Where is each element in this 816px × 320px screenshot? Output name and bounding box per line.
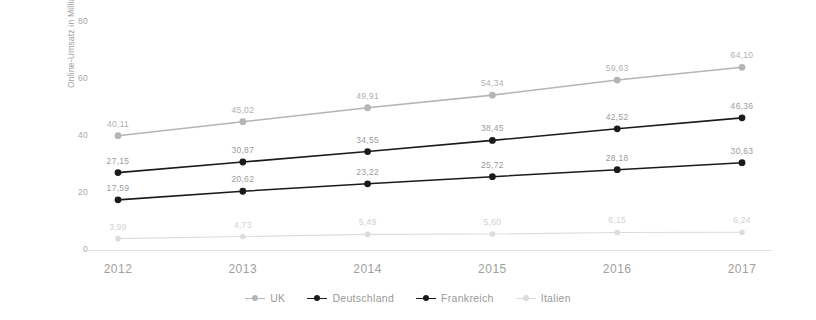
data-point-marker: [115, 132, 122, 139]
data-point-label: 54,34: [469, 78, 515, 88]
data-point-label: 23,22: [345, 167, 391, 177]
series-line: [118, 118, 742, 173]
legend-marker-icon: [416, 293, 436, 303]
data-point-label: 25,72: [469, 160, 515, 170]
data-point-label: 49,91: [345, 91, 391, 101]
data-point-marker: [239, 118, 246, 125]
legend-item-deutschland[interactable]: Deutschland: [307, 292, 394, 304]
series-frankreich: [115, 159, 746, 203]
data-point-marker: [364, 148, 371, 155]
chart-legend: UKDeutschlandFrankreichItalien: [0, 292, 816, 304]
data-point-label: 30,63: [719, 146, 765, 156]
data-point-marker: [364, 104, 371, 111]
data-point-label: 6,15: [594, 215, 640, 225]
legend-item-italien[interactable]: Italien: [516, 292, 571, 304]
data-point-label: 64,10: [719, 50, 765, 60]
legend-item-label: Deutschland: [332, 292, 394, 304]
data-point-marker: [490, 231, 496, 237]
data-point-label: 38,45: [469, 123, 515, 133]
series-deutschland: [115, 114, 746, 176]
legend-item-frankreich[interactable]: Frankreich: [416, 292, 494, 304]
data-point-marker: [739, 159, 746, 166]
line-chart: Online-Umsatz in Milliarden Euro 8060402…: [0, 0, 816, 320]
data-point-label: 4,73: [220, 220, 266, 230]
data-point-label: 42,52: [594, 112, 640, 122]
legend-marker-icon: [307, 293, 327, 303]
data-point-marker: [739, 64, 746, 71]
legend-item-label: Italien: [541, 292, 571, 304]
data-point-label: 27,15: [95, 156, 141, 166]
data-point-label: 17,59: [95, 183, 141, 193]
data-point-label: 46,36: [719, 101, 765, 111]
data-point-label: 28,18: [594, 153, 640, 163]
data-point-marker: [614, 230, 620, 236]
data-point-marker: [614, 77, 621, 84]
data-point-label: 6,24: [719, 215, 765, 225]
data-point-marker: [614, 166, 621, 173]
data-point-marker: [489, 173, 496, 180]
legend-marker-icon: [516, 293, 536, 303]
data-point-label: 45,02: [220, 105, 266, 115]
data-point-label: 5,60: [469, 217, 515, 227]
series-line: [118, 232, 742, 238]
series-uk: [115, 64, 746, 139]
data-point-label: 20,62: [220, 174, 266, 184]
data-point-marker: [239, 188, 246, 195]
data-point-marker: [115, 169, 122, 176]
legend-item-label: UK: [270, 292, 285, 304]
legend-item-label: Frankreich: [441, 292, 494, 304]
data-point-marker: [240, 234, 246, 240]
series-italien: [115, 229, 745, 241]
data-point-marker: [614, 125, 621, 132]
data-point-marker: [365, 232, 371, 238]
data-point-marker: [739, 114, 746, 121]
data-point-label: 34,55: [345, 135, 391, 145]
data-point-label: 3,99: [95, 222, 141, 232]
data-point-marker: [489, 137, 496, 144]
data-point-label: 40,11: [95, 119, 141, 129]
x-axis-baseline: [88, 250, 772, 251]
data-point-marker: [115, 236, 121, 242]
data-point-marker: [115, 196, 122, 203]
data-point-label: 30,87: [220, 145, 266, 155]
series-line: [118, 163, 742, 200]
data-point-marker: [489, 92, 496, 99]
legend-marker-icon: [245, 293, 265, 303]
legend-item-uk[interactable]: UK: [245, 292, 285, 304]
data-point-label: 5,49: [345, 217, 391, 227]
data-point-marker: [364, 180, 371, 187]
data-point-label: 59,63: [594, 63, 640, 73]
data-point-marker: [739, 229, 745, 235]
data-point-marker: [239, 159, 246, 166]
